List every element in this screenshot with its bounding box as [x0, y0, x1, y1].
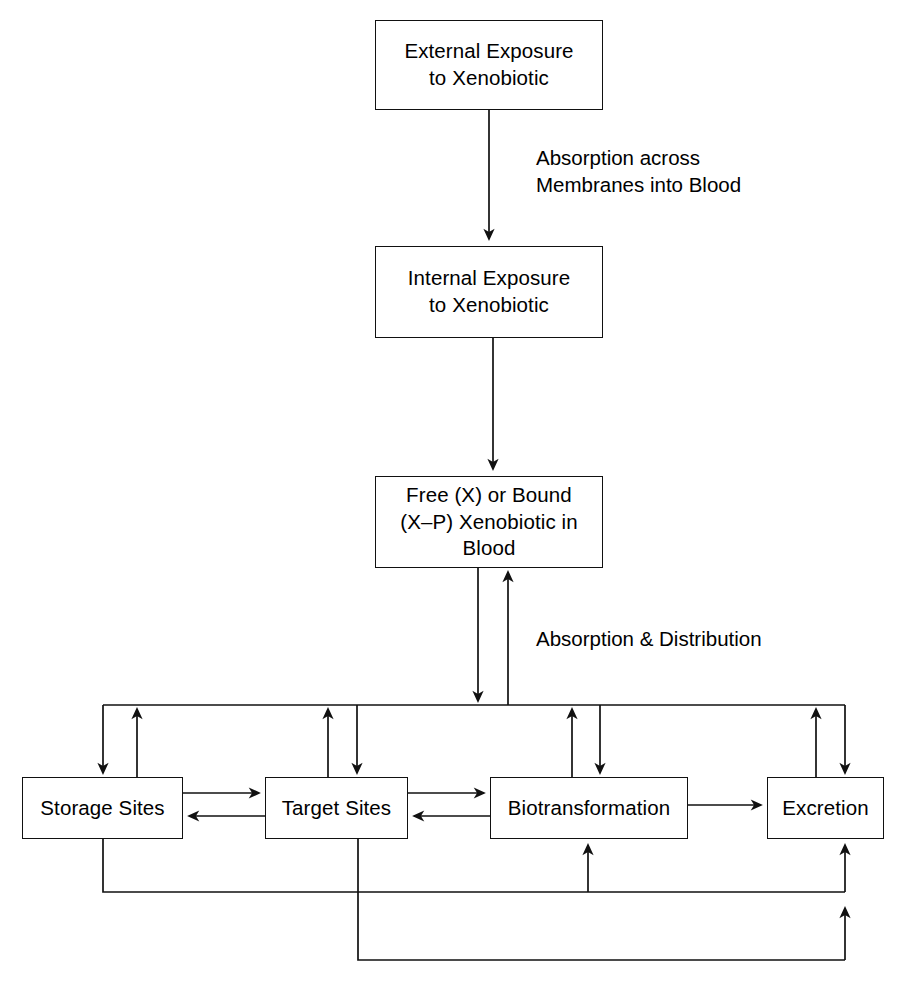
node-external-exposure-label: External Exposure to Xenobiotic	[398, 38, 579, 91]
node-internal-exposure-label: Internal Exposure to Xenobiotic	[402, 265, 576, 318]
node-free-or-bound-xenobiotic-label: Free (X) or Bound (X–P) Xenobiotic in Bl…	[394, 482, 583, 562]
node-free-or-bound-xenobiotic[interactable]: Free (X) or Bound (X–P) Xenobiotic in Bl…	[375, 476, 603, 568]
node-storage-sites-label: Storage Sites	[34, 795, 170, 822]
lower-bus-1	[103, 839, 845, 892]
node-excretion-label: Excretion	[776, 795, 874, 822]
node-internal-exposure[interactable]: Internal Exposure to Xenobiotic	[375, 246, 603, 338]
node-biotransformation-label: Biotransformation	[502, 795, 676, 822]
node-biotransformation[interactable]: Biotransformation	[490, 777, 688, 839]
edge-label-absorption-and-distribution: Absorption & Distribution	[536, 625, 866, 652]
node-external-exposure[interactable]: External Exposure to Xenobiotic	[375, 20, 603, 110]
lower-bus-2	[358, 839, 845, 960]
diagram-canvas: External Exposure to Xenobiotic Internal…	[0, 0, 906, 992]
node-excretion[interactable]: Excretion	[767, 777, 884, 839]
node-target-sites[interactable]: Target Sites	[265, 777, 408, 839]
edge-label-absorption-across-membranes: Absorption across Membranes into Blood	[536, 144, 866, 198]
node-storage-sites[interactable]: Storage Sites	[22, 777, 183, 839]
node-target-sites-label: Target Sites	[276, 795, 397, 822]
